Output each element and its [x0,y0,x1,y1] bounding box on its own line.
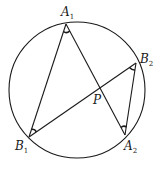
label-b1: B1 [14,139,28,155]
label-p: P [92,93,102,107]
label-a2: A2 [123,139,137,155]
segment-a1-b1 [29,24,66,137]
angle-mark-b1 [32,129,37,132]
label-b2: B2 [139,52,153,68]
label-a1: A1 [60,5,74,21]
intersecting-chords-diagram: A1 A2 B1 B2 P [0,0,161,170]
angle-mark-a1 [64,31,70,33]
angle-mark-b2 [130,68,136,71]
segment-b2-a2 [125,63,136,135]
segment-a1-a2 [66,24,125,135]
angle-mark-a2 [121,126,127,127]
circle [9,22,145,158]
